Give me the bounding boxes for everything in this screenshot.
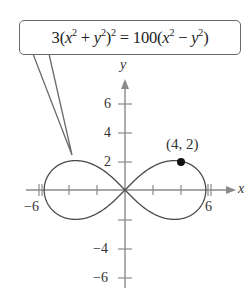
y-axis-arrow-icon <box>121 79 129 89</box>
equation-callout: 3(x2 + y2)2 = 100(x2 − y2) <box>19 20 241 55</box>
x-axis-label: x <box>238 182 244 196</box>
y-tick-label-neg4: −4 <box>93 242 108 256</box>
point-4-2 <box>177 158 185 166</box>
y-axis-label: y <box>120 58 126 72</box>
x-axis-arrow-icon <box>226 186 236 194</box>
callout-pointer <box>33 54 72 155</box>
y-tick-label-neg6: −6 <box>93 271 108 285</box>
equation-text: 3(x2 + y2)2 = 100(x2 − y2) <box>52 28 209 48</box>
y-tick-label-4: 4 <box>104 126 111 140</box>
x-tick-label-neg6: −6 <box>24 200 39 214</box>
x-tick-label-6: 6 <box>205 200 212 214</box>
y-tick-label-6: 6 <box>104 97 111 111</box>
y-tick-label-2: 2 <box>104 155 111 169</box>
point-label: (4, 2) <box>166 137 199 152</box>
